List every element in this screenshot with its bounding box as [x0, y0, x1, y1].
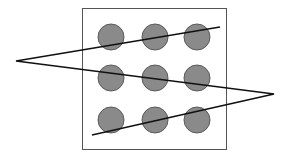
- dot-4: [98, 65, 124, 91]
- nine-dots-diagram: [0, 0, 284, 157]
- dot-3: [184, 24, 210, 50]
- dot-6: [184, 65, 210, 91]
